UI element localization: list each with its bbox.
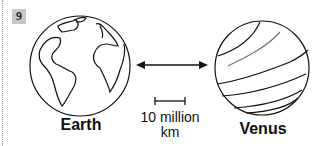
scale-bar-icon	[155, 97, 185, 105]
earth-label: Earth	[55, 116, 107, 134]
distance-arrow-icon	[136, 61, 208, 69]
venus-planet-icon	[215, 21, 309, 115]
venus-label: Venus	[236, 120, 290, 138]
earth-globe-icon	[30, 16, 130, 116]
scale-unit: km	[132, 125, 208, 140]
scale-value: 10 million	[132, 110, 208, 125]
